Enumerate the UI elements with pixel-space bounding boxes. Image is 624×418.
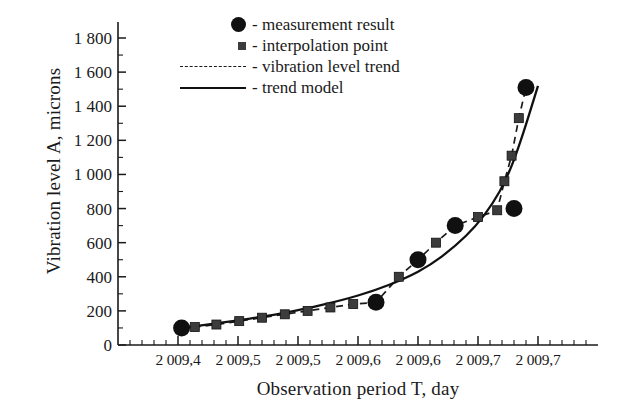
- measurement-result-marker: [447, 217, 464, 234]
- y-tick-label: 1 400: [52, 98, 112, 115]
- circle-marker-icon: [176, 14, 252, 35]
- interpolation-point-marker: [493, 206, 502, 215]
- y-tick-label: 600: [52, 235, 112, 252]
- interpolation-point-marker: [326, 303, 335, 312]
- chart-legend: - measurement result - interpolation poi…: [176, 14, 400, 98]
- interpolation-point-marker: [514, 114, 523, 123]
- y-tick-label: 400: [52, 269, 112, 286]
- interpolation-point-marker: [500, 177, 509, 186]
- x-tick-label: 2 009,6: [335, 352, 380, 368]
- interpolation-point-marker: [212, 320, 221, 329]
- interpolation-point-marker: [507, 151, 516, 160]
- legend-item-measurement-result: - measurement result: [176, 14, 400, 35]
- y-tick-label: 1 000: [52, 166, 112, 183]
- interpolation-point-marker: [349, 300, 358, 309]
- interpolation-point-marker: [432, 238, 441, 247]
- chart-root: Vibration level A, microns Observation p…: [0, 0, 624, 418]
- legend-item-vibration-level-trend: - vibration level trend: [176, 56, 400, 77]
- interpolation-point-marker: [235, 317, 244, 326]
- square-marker-icon: [176, 35, 252, 56]
- x-tick-label: 2 009,7: [515, 352, 560, 368]
- measurement-result-marker: [173, 319, 190, 336]
- legend-label: - interpolation point: [252, 37, 388, 54]
- x-tick-label: 2 009,7: [455, 352, 500, 368]
- interpolation-point-marker: [258, 313, 267, 322]
- measurement-result-marker: [518, 79, 535, 96]
- interpolation-point-marker: [394, 272, 403, 281]
- legend-label: - trend model: [252, 79, 344, 96]
- measurement-result-marker: [368, 294, 385, 311]
- measurement-result-marker: [410, 251, 427, 268]
- interpolation-point-marker: [303, 306, 312, 315]
- y-tick-label: 1 600: [52, 64, 112, 81]
- y-tick-label: 200: [52, 303, 112, 320]
- legend-item-trend-model: - trend model: [176, 77, 400, 98]
- interpolation-point-marker: [190, 323, 199, 332]
- legend-label: - measurement result: [252, 16, 395, 33]
- x-axis-title: Observation period T, day: [118, 378, 598, 400]
- y-tick-label: 1 200: [52, 132, 112, 149]
- y-tick-label: 1 800: [52, 30, 112, 47]
- solid-line-icon: [176, 77, 252, 98]
- x-tick-label: 2 009,5: [275, 352, 320, 368]
- measurement-result-marker: [506, 200, 523, 217]
- y-axis-tick-labels: 02004006008001 0001 2001 4001 6001 800: [50, 0, 112, 418]
- y-tick-label: 0: [52, 337, 112, 354]
- x-tick-label: 2 009,5: [215, 352, 260, 368]
- x-tick-label: 2 009,4: [155, 352, 200, 368]
- interpolation-point-marker: [474, 213, 483, 222]
- interpolation-point-marker: [280, 310, 289, 319]
- x-tick-label: 2 009,6: [395, 352, 440, 368]
- y-tick-label: 800: [52, 201, 112, 218]
- dashed-line-icon: [176, 56, 252, 77]
- legend-label: - vibration level trend: [252, 58, 400, 75]
- legend-item-interpolation-point: - interpolation point: [176, 35, 400, 56]
